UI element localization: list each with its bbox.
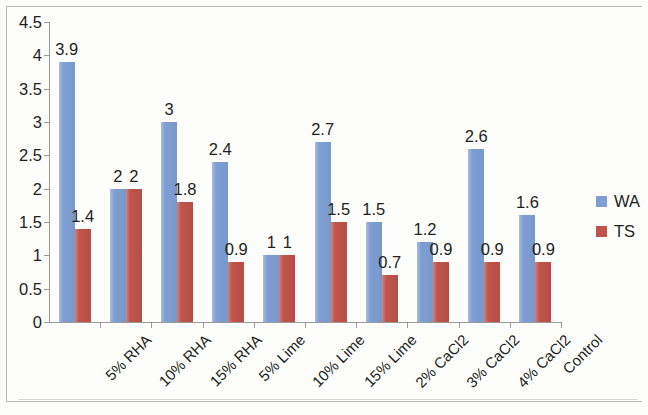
bar-ts-8	[484, 262, 500, 322]
x-axis-tick-mark	[561, 322, 562, 328]
y-axis-tick-label: 2	[33, 179, 42, 198]
bar-value-label: 3.9	[55, 40, 78, 59]
legend-swatch-icon	[596, 196, 607, 207]
legend-label: WA	[614, 192, 640, 211]
x-axis-category-label: 3% CaCl2	[463, 331, 523, 391]
legend-item-ts[interactable]: TS	[596, 216, 640, 246]
y-axis-tick-label: 3.5	[19, 79, 42, 98]
bar-value-label: 3	[164, 100, 173, 119]
bar-value-label: 1	[267, 233, 276, 252]
y-axis-tick-mark	[44, 222, 49, 223]
y-axis-tick-label: 4.5	[19, 13, 42, 32]
y-axis-tick-mark	[44, 322, 49, 323]
bar-value-label: 2	[129, 167, 138, 186]
bar-value-label: 2.4	[209, 140, 232, 159]
y-axis-tick-label: 4	[33, 46, 42, 65]
bar-value-label: 1.6	[516, 193, 539, 212]
bar-ts-4	[279, 255, 295, 322]
bar-wa-8	[468, 149, 484, 322]
x-axis-category-label: 15% RHA	[206, 331, 265, 390]
y-axis-tick-mark	[44, 55, 49, 56]
y-axis-tick-label: 3	[33, 113, 42, 132]
bar-value-label: 2.7	[311, 120, 334, 139]
bar-value-label: 1.5	[362, 200, 385, 219]
bar-value-label: 0.9	[532, 240, 555, 259]
bar-chart-figure: 4.543.532.521.510.50 3.91.42231.82.40.91…	[0, 0, 648, 415]
bar-ts-9	[535, 262, 551, 322]
y-axis-tick-label: 0	[33, 313, 42, 332]
x-axis-tick-mark	[254, 322, 255, 328]
bar-wa-0	[59, 62, 75, 322]
x-axis-tick-mark	[459, 322, 460, 328]
y-axis-tick-mark	[44, 89, 49, 90]
bar-value-label: 2	[113, 167, 122, 186]
bar-ts-2	[177, 202, 193, 322]
y-axis-labels: 4.543.532.521.510.50	[0, 22, 42, 323]
bar-value-label: 0.9	[225, 240, 248, 259]
chart-legend: WATS	[596, 186, 640, 246]
x-axis-tick-mark	[151, 322, 152, 328]
bar-value-label: 1.5	[327, 200, 350, 219]
bar-value-label: 1.8	[174, 180, 197, 199]
bar-ts-0	[75, 229, 91, 322]
x-axis-category-label: 15% Lime	[360, 331, 419, 390]
bar-value-label: 2.6	[465, 127, 488, 146]
y-axis-tick-mark	[44, 155, 49, 156]
y-axis-tick-label: 2.5	[19, 146, 42, 165]
y-axis-tick-mark	[44, 22, 49, 23]
bar-wa-4	[263, 255, 279, 322]
bar-wa-2	[161, 122, 177, 322]
bar-value-label: 0.9	[481, 240, 504, 259]
bar-ts-1	[126, 189, 142, 322]
x-axis-category-label: 10% RHA	[155, 331, 214, 390]
x-axis-category-label: 5% RHA	[101, 331, 154, 384]
bar-value-label: 1	[283, 233, 292, 252]
bar-ts-3	[228, 262, 244, 322]
plot-area: 3.91.42231.82.40.9112.71.51.50.71.20.92.…	[49, 22, 561, 323]
y-axis-tick-mark	[44, 189, 49, 190]
legend-label: TS	[614, 222, 635, 241]
x-axis-category-label: 10% Lime	[309, 331, 368, 390]
y-axis-line	[49, 22, 50, 323]
y-axis-tick-mark	[44, 255, 49, 256]
bar-wa-5	[315, 142, 331, 322]
bar-value-label: 1.4	[71, 207, 94, 226]
y-axis-tick-label: 1.5	[19, 213, 42, 232]
x-axis-tick-mark	[510, 322, 511, 328]
figure-bottom-rule	[18, 399, 638, 400]
bar-value-label: 0.9	[430, 240, 453, 259]
x-axis-tick-mark	[305, 322, 306, 328]
bar-ts-7	[433, 262, 449, 322]
bar-wa-9	[519, 215, 535, 322]
bar-ts-6	[382, 275, 398, 322]
y-axis-tick-label: 1	[33, 246, 42, 265]
bar-ts-5	[331, 222, 347, 322]
y-axis-tick-mark	[44, 289, 49, 290]
y-axis-tick-label: 0.5	[19, 279, 42, 298]
x-axis-category-label: 2% CaCl2	[412, 331, 472, 391]
x-axis-category-label: 5% Lime	[255, 331, 308, 384]
bar-wa-1	[110, 189, 126, 322]
y-axis-tick-mark	[44, 122, 49, 123]
bar-value-label: 0.7	[378, 253, 401, 272]
x-axis-tick-mark	[203, 322, 204, 328]
x-axis-tick-mark	[100, 322, 101, 328]
x-axis-tick-mark	[407, 322, 408, 328]
bar-value-label: 1.2	[414, 220, 437, 239]
legend-swatch-icon	[596, 226, 607, 237]
x-axis-tick-mark	[356, 322, 357, 328]
legend-item-wa[interactable]: WA	[596, 186, 640, 216]
